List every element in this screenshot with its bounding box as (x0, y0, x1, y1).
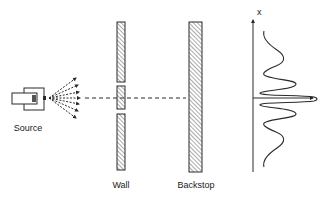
particle-spray-icon (49, 78, 80, 118)
source-gun-icon (12, 88, 46, 110)
source-label: Source (14, 123, 43, 133)
wall-label: Wall (112, 180, 129, 190)
interference-pattern-curve (260, 31, 317, 167)
backstop-label: Backstop (177, 180, 214, 190)
double-slit-diagram: x Source Wall Backstop (0, 0, 326, 198)
wall (117, 22, 125, 170)
backstop (189, 22, 202, 172)
axis-label-x: x (257, 7, 262, 17)
